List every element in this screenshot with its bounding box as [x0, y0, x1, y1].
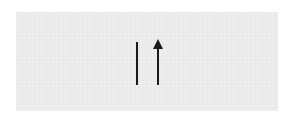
vertical-bar-icon	[136, 42, 138, 85]
up-arrow-icon	[152, 39, 164, 85]
gray-panel	[16, 12, 278, 111]
